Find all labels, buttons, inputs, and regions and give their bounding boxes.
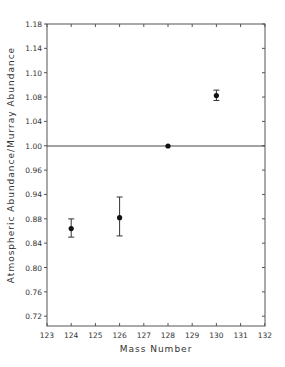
y-tick-label: 0.80 [25,264,42,273]
x-tick-label: 124 [64,331,79,340]
x-tick-label: 123 [40,331,55,340]
data-point [165,143,170,148]
data-point [117,197,123,236]
data-point [213,90,219,100]
y-tick-label: 1.08 [25,93,42,102]
y-tick-label: 0.88 [25,215,42,224]
data-point [68,219,74,237]
x-axis-label: Mass Number [120,344,193,354]
y-tick-label: 1.00 [25,142,42,151]
y-tick-label: 0.72 [25,312,42,321]
y-tick-label: 0.84 [25,239,42,248]
x-tick-label: 126 [112,331,127,340]
x-tick-label: 130 [209,331,224,340]
x-tick-label: 128 [161,331,176,340]
y-tick-label: 1.10 [25,69,42,78]
y-tick-label: 1.14 [25,44,42,53]
x-tick-label: 131 [233,331,248,340]
data-points [68,90,219,237]
marker [214,93,219,98]
x-tick-label: 125 [88,331,103,340]
marker [117,215,122,220]
chart: 123124125126127128129130131132 1.181.141… [0,0,285,367]
y-axis-label: Atmospheric Abundance/Murray Abundance [6,47,16,283]
marker [69,226,74,231]
x-tick-label: 132 [258,331,273,340]
y-tick-label: 1.18 [25,20,42,29]
x-tick-label: 127 [137,331,152,340]
y-axis-ticks: 1.181.141.101.081.041.000.960.940.880.84… [25,20,265,321]
plot-frame [47,24,265,326]
x-axis-ticks: 123124125126127128129130131132 [40,24,272,340]
y-tick-label: 1.04 [25,117,42,126]
x-tick-label: 129 [185,331,200,340]
y-tick-label: 0.76 [25,288,42,297]
y-tick-label: 0.96 [25,166,42,175]
marker [165,143,170,148]
y-tick-label: 0.94 [25,190,42,199]
